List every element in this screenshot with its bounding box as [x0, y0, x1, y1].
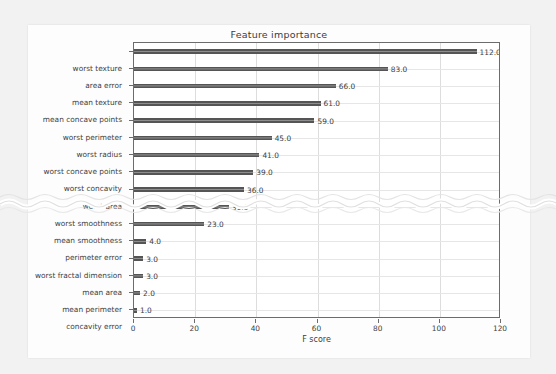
chart-title: Feature importance	[28, 29, 530, 40]
bar	[134, 101, 321, 106]
bar	[134, 49, 477, 54]
bar	[134, 222, 204, 227]
plot-area: 112.083.066.061.059.045.041.039.036.031.…	[133, 42, 500, 318]
y-gridline	[134, 259, 499, 260]
bar-value-label: 2.0	[143, 289, 155, 298]
y-tick-label: mean texture	[72, 98, 128, 107]
y-tick-mark	[129, 223, 133, 224]
bar-value-label: 112.0	[480, 47, 500, 56]
y-tick-label: concavity error	[66, 322, 128, 331]
y-tick-mark	[129, 275, 133, 276]
x-tick-label: 80	[373, 324, 382, 333]
y-tick-label: mean area	[82, 287, 128, 296]
bar-value-label: 31.0	[232, 202, 248, 211]
x-axis-tick-labels: 020406080100120	[133, 319, 500, 335]
x-tick-label: 100	[432, 324, 446, 333]
bar	[134, 153, 259, 158]
y-tick-label: worst concavity	[64, 184, 128, 193]
bar	[134, 84, 336, 89]
x-tick-mark	[133, 319, 134, 323]
bar	[134, 67, 388, 72]
y-tick-mark	[129, 137, 133, 138]
bar-value-label: 3.0	[146, 271, 158, 280]
y-gridline	[134, 293, 499, 294]
x-tick-mark	[317, 319, 318, 323]
bar	[134, 187, 244, 192]
y-gridline	[134, 310, 499, 311]
y-tick-label: mean concave points	[43, 115, 128, 124]
x-tick-mark	[378, 319, 379, 323]
bar-value-label: 23.0	[207, 220, 223, 229]
x-tick-label: 40	[251, 324, 260, 333]
y-tick-mark	[129, 206, 133, 207]
x-tick-label: 120	[493, 324, 507, 333]
y-tick-label: worst texture	[73, 63, 128, 72]
y-tick-mark	[129, 51, 133, 52]
y-tick-label: mean smoothness	[54, 236, 128, 245]
bar	[134, 136, 272, 141]
y-tick-label: area error	[85, 80, 128, 89]
y-gridline	[134, 276, 499, 277]
bar	[134, 291, 140, 296]
y-tick-mark	[129, 154, 133, 155]
bar	[134, 239, 146, 244]
y-gridline	[134, 241, 499, 242]
y-tick-label: worst area	[83, 201, 128, 210]
bar-value-label: 83.0	[391, 64, 407, 73]
x-axis-label: F score	[133, 335, 500, 344]
bar-value-label: 61.0	[324, 99, 340, 108]
y-tick-label: perimeter error	[65, 253, 128, 262]
bar	[134, 256, 143, 261]
bar-value-label: 59.0	[317, 116, 333, 125]
bar-value-label: 3.0	[146, 254, 158, 263]
bar	[134, 170, 253, 175]
bar-value-label: 36.0	[247, 185, 263, 194]
bar-value-label: 41.0	[262, 151, 278, 160]
y-tick-label: worst perimeter	[63, 132, 128, 141]
y-tick-mark	[129, 120, 133, 121]
y-axis-tick-labels: worst texturearea errormean texturemean …	[28, 42, 128, 318]
x-tick-mark	[255, 319, 256, 323]
y-tick-label: mean perimeter	[62, 305, 128, 314]
bar-value-label: 1.0	[140, 306, 152, 315]
y-tick-mark	[129, 258, 133, 259]
x-tick-label: 60	[312, 324, 321, 333]
bar-value-label: 4.0	[149, 237, 161, 246]
x-tick-mark	[439, 319, 440, 323]
y-tick-label: worst smoothness	[55, 218, 128, 227]
y-tick-mark	[129, 68, 133, 69]
y-tick-mark	[129, 171, 133, 172]
y-tick-label: worst radius	[76, 149, 128, 158]
feature-importance-chart: Feature importance worst texturearea err…	[28, 25, 530, 358]
y-tick-mark	[129, 189, 133, 190]
bar-value-label: 45.0	[275, 133, 291, 142]
y-tick-mark	[129, 292, 133, 293]
scanned-page-card: Feature importance worst texturearea err…	[28, 25, 530, 358]
y-tick-label: worst fractal dimension	[35, 270, 128, 279]
bar	[134, 308, 137, 313]
bar	[134, 118, 314, 123]
bar-value-label: 39.0	[256, 168, 272, 177]
y-tick-mark	[129, 309, 133, 310]
x-tick-mark	[194, 319, 195, 323]
bar	[134, 205, 229, 210]
x-tick-mark	[500, 319, 501, 323]
bar	[134, 274, 143, 279]
y-tick-label: worst concave points	[43, 167, 128, 176]
y-tick-mark	[129, 102, 133, 103]
x-tick-label: 20	[189, 324, 198, 333]
x-tick-label: 0	[131, 324, 136, 333]
bar-value-label: 66.0	[339, 82, 355, 91]
y-tick-mark	[129, 85, 133, 86]
y-tick-mark	[129, 240, 133, 241]
